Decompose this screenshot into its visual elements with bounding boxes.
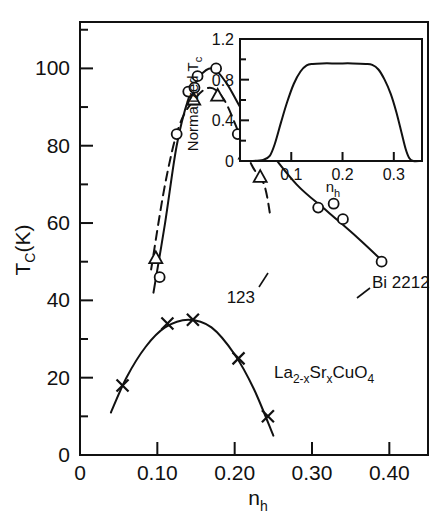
y-axis-title-sub: C bbox=[22, 253, 38, 263]
inset-y-tick-label: 0.4 bbox=[212, 112, 234, 129]
inset-y-title-sub: c bbox=[192, 56, 204, 62]
y123-label: 123 bbox=[227, 288, 255, 307]
inset-x-tick-label: 0.3 bbox=[383, 166, 405, 183]
inset-x-tick-label: 0.1 bbox=[280, 166, 302, 183]
chart-canvas: 020406080100 00.100.200.300.40 TC(K) nh … bbox=[0, 0, 446, 516]
svg-text:TC(K): TC(K) bbox=[11, 225, 38, 276]
data-point-Bi2212 bbox=[377, 257, 387, 267]
data-point-Bi2212 bbox=[313, 203, 323, 213]
x-tick-label: 0.30 bbox=[292, 461, 333, 484]
x-tick-label: 0.20 bbox=[214, 461, 255, 484]
data-point-Bi2212 bbox=[329, 199, 339, 209]
y-axis-title-unit: (K) bbox=[11, 225, 34, 253]
figure-root: 020406080100 00.100.200.300.40 TC(K) nh … bbox=[0, 0, 446, 516]
y-tick-label: 100 bbox=[35, 56, 70, 79]
lsco-sr: Sr bbox=[310, 363, 327, 382]
y-tick-label: 0 bbox=[58, 443, 70, 466]
x-tick-label: 0 bbox=[74, 461, 86, 484]
x-tick-label: 0.40 bbox=[369, 461, 410, 484]
lsco-cuo: CuO bbox=[333, 363, 368, 382]
lsco-la: La bbox=[274, 363, 293, 382]
x-axis-title-main: n bbox=[248, 486, 260, 509]
y-tick-label: 20 bbox=[47, 366, 70, 389]
inset-y-tick-label: 0.8 bbox=[212, 72, 234, 89]
inset-x-title-main: n bbox=[326, 178, 334, 195]
data-point-Bi2212 bbox=[172, 129, 182, 139]
lsco-sub-4: 4 bbox=[368, 372, 375, 386]
bi2212-label: Bi 2212 bbox=[372, 273, 430, 292]
inset-x-axis-tick-labels: 0.10.20.3 bbox=[280, 166, 405, 183]
y-axis-title-main: T bbox=[11, 262, 34, 275]
data-point-Bi2212 bbox=[155, 272, 165, 282]
y-tick-label: 40 bbox=[47, 288, 70, 311]
inset-y-tick-label: 0 bbox=[225, 153, 234, 170]
y-tick-label: 80 bbox=[47, 134, 70, 157]
data-point-Bi2212 bbox=[338, 214, 348, 224]
inset-plot bbox=[240, 39, 422, 161]
lsco-sub-2x: 2-x bbox=[293, 372, 310, 386]
x-axis-title-sub: h bbox=[260, 498, 268, 514]
inset-x-tick-label: 0.2 bbox=[331, 166, 353, 183]
y-tick-label: 60 bbox=[47, 211, 70, 234]
inset-y-tick-label: 1.2 bbox=[212, 31, 234, 48]
inset-x-title-sub: h bbox=[334, 187, 340, 199]
x-tick-label: 0.10 bbox=[137, 461, 178, 484]
main-y-axis-title: TC(K) bbox=[11, 225, 38, 276]
inset-y-title-main: Normalized T bbox=[184, 62, 201, 151]
